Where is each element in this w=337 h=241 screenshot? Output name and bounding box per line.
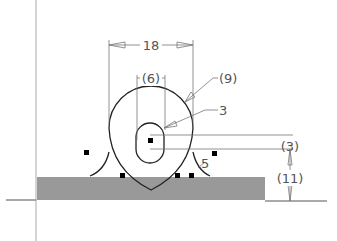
left-fillet[interactable]: [90, 152, 109, 176]
dim-fillet-radius[interactable]: 5: [201, 156, 209, 171]
tangent-point-3[interactable]: [189, 173, 194, 178]
fillet-center-left[interactable]: [84, 150, 89, 155]
sketch-canvas[interactable]: 18 (6) (9) 3 (3) (11) 5: [0, 0, 337, 241]
dim-slot-radius[interactable]: 3: [219, 103, 227, 118]
outer-arc[interactable]: [109, 86, 193, 128]
tangent-point-1[interactable]: [120, 173, 125, 178]
dim-overall-width[interactable]: 18: [143, 38, 160, 53]
dim-outer-radius[interactable]: (9): [219, 71, 237, 86]
fillet-center-right[interactable]: [212, 151, 217, 156]
tangent-point-2[interactable]: [175, 173, 180, 178]
dim-height[interactable]: (11): [277, 171, 304, 186]
dim-slot-width[interactable]: (6): [142, 71, 160, 86]
base-block[interactable]: [37, 177, 265, 200]
slot-center-point[interactable]: [148, 138, 153, 143]
